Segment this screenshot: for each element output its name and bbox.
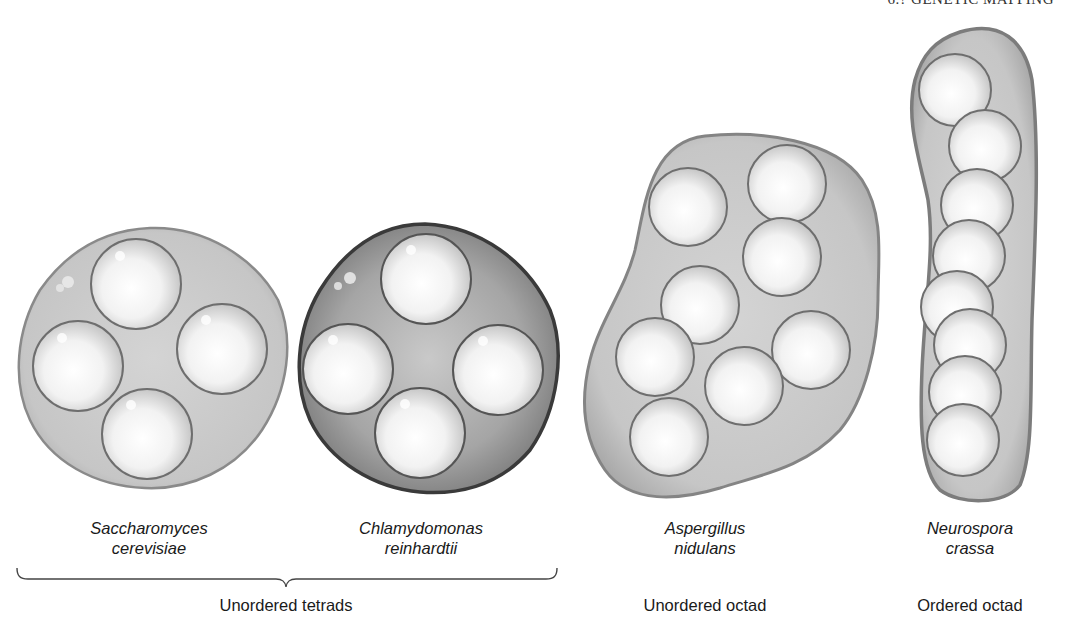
spore [102,389,192,479]
spore [630,398,708,476]
spore [303,324,393,414]
spore [748,145,826,223]
ascus-chlamydomonas [299,224,558,493]
category-unordered-octad: Unordered octad [595,595,815,615]
ascus-aspergillus [585,134,879,497]
spore [177,304,267,394]
label-aspergillus: Aspergillus nidulans [620,518,790,558]
spore [381,234,471,324]
spore [453,325,543,415]
tetrad-bracket [17,568,557,587]
category-unordered-tetrads: Unordered tetrads [176,595,396,615]
spore [616,318,694,396]
spore [91,239,181,329]
species-name: reinhardtii [330,538,512,558]
spore [649,168,727,246]
spore [743,218,821,296]
spore [705,347,783,425]
species-name: cerevisiae [58,538,240,558]
ascus-saccharomyces [19,228,287,488]
spore [927,404,999,476]
spore [772,311,850,389]
species-name: nidulans [620,538,790,558]
spore [375,388,465,478]
species-name: crassa [885,538,1055,558]
label-chlamydomonas: Chlamydomonas reinhardtii [330,518,512,558]
genus-name: Aspergillus [620,518,790,538]
genus-name: Chlamydomonas [330,518,512,538]
genus-name: Neurospora [885,518,1055,538]
label-neurospora: Neurospora crassa [885,518,1055,558]
genus-name: Saccharomyces [58,518,240,538]
ascus-neurospora [912,29,1037,501]
spore [33,321,123,411]
label-saccharomyces: Saccharomyces cerevisiae [58,518,240,558]
category-ordered-octad: Ordered octad [860,595,1068,615]
